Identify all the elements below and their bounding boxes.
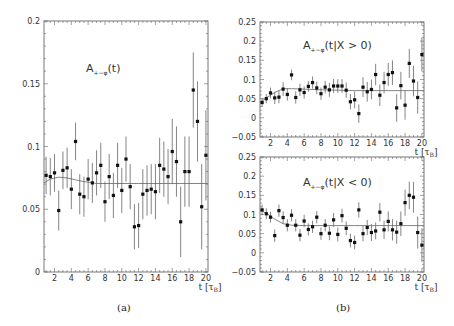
x-axis-label: t [τB] (415, 147, 438, 158)
data-point (286, 93, 289, 96)
data-point (336, 233, 339, 236)
data-point (200, 205, 203, 208)
data-point (137, 224, 140, 227)
y-tick-label: 0.1 (243, 76, 256, 85)
data-point (420, 244, 423, 247)
y-tick-label: 0.2 (243, 172, 256, 181)
data-point (269, 91, 272, 94)
x-tick-label: 8 (102, 274, 107, 283)
data-point (374, 73, 377, 76)
data-point (349, 239, 352, 242)
data-point (378, 94, 381, 97)
data-point (286, 224, 289, 227)
caption-b: (b) (336, 302, 350, 313)
data-point (95, 171, 98, 174)
data-point (282, 216, 285, 219)
data-point (408, 194, 411, 197)
x-tick-label: 4 (285, 139, 290, 148)
data-point (74, 140, 77, 143)
data-point (399, 222, 402, 225)
data-point (298, 234, 301, 237)
y-tick-label: 0.05 (238, 230, 256, 239)
data-point (349, 100, 352, 103)
x-tick-label: 8 (318, 274, 323, 283)
data-point (129, 185, 132, 188)
data-point (399, 84, 402, 87)
data-point (395, 231, 398, 234)
data-point (332, 84, 335, 87)
data-point (124, 157, 127, 160)
x-tick-label: 10 (117, 274, 127, 283)
data-point (319, 232, 322, 235)
data-point (265, 212, 268, 215)
data-point (403, 104, 406, 107)
data-point (91, 181, 94, 184)
data-point (387, 220, 390, 223)
data-point (353, 98, 356, 101)
y-tick-label: 0.15 (238, 56, 256, 65)
y-tick-label: 0.1 (27, 143, 40, 152)
data-point (112, 194, 115, 197)
x-tick-label: 2 (268, 274, 273, 283)
data-point (328, 232, 331, 235)
data-point (204, 154, 207, 157)
data-point (277, 96, 280, 99)
plot-area (260, 182, 424, 262)
data-point (382, 228, 385, 231)
data-point (336, 84, 339, 87)
data-point (324, 224, 327, 227)
data-point (340, 214, 343, 217)
chart-title: A+−φ(t) (86, 62, 120, 77)
chart-panel-b-top: 2468101214161820−0.0500.050.10.150.20.25… (231, 18, 437, 158)
data-point (99, 164, 102, 167)
data-point (141, 193, 144, 196)
x-tick-label: 2 (268, 139, 273, 148)
x-tick-label: 12 (350, 274, 360, 283)
data-point (166, 175, 169, 178)
x-tick-label: 8 (318, 139, 323, 148)
x-tick-label: 6 (302, 274, 307, 283)
data-point (61, 169, 64, 172)
data-point (324, 86, 327, 89)
x-tick-label: 14 (366, 274, 376, 283)
data-point (133, 225, 136, 228)
x-tick-label: 6 (86, 274, 91, 283)
x-axis-label: t [τB] (415, 282, 438, 293)
x-tick-label: 16 (383, 139, 393, 148)
y-tick-label: 0.25 (238, 18, 256, 27)
data-point (261, 208, 264, 211)
data-point (391, 228, 394, 231)
data-point (282, 87, 285, 90)
y-tick-label: 0.05 (238, 95, 256, 104)
data-point (357, 112, 360, 115)
caption-a: (a) (117, 302, 131, 313)
data-point (171, 150, 174, 153)
data-point (307, 228, 310, 231)
data-point (332, 218, 335, 221)
data-point (387, 73, 390, 76)
data-point (366, 90, 369, 93)
data-point (154, 190, 157, 193)
data-point (179, 220, 182, 223)
data-point (374, 229, 377, 232)
data-point (420, 53, 423, 56)
data-point (53, 171, 56, 174)
data-point (158, 164, 161, 167)
data-point (82, 195, 85, 198)
data-point (261, 101, 264, 104)
data-point (290, 214, 293, 217)
data-point (378, 211, 381, 214)
data-point (269, 216, 272, 219)
data-point (361, 232, 364, 235)
data-point (311, 81, 314, 84)
data-point (87, 178, 90, 181)
data-point (353, 241, 356, 244)
chart-title: A+−φ(t|X < 0) (303, 176, 372, 191)
data-point (145, 189, 148, 192)
x-tick-label: 18 (400, 274, 410, 283)
y-tick-label: 0 (251, 114, 256, 123)
y-tick-label: −0.05 (231, 133, 256, 142)
data-point (196, 120, 199, 123)
x-tick-label: 4 (285, 274, 290, 283)
data-point (345, 227, 348, 230)
